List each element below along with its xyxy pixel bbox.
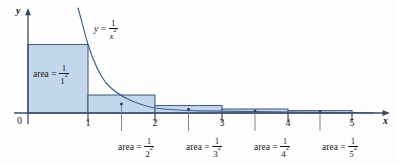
area-exponent-4: 2 bbox=[286, 144, 289, 151]
area-word-4: area bbox=[254, 143, 270, 153]
area-equals-3: = bbox=[203, 143, 211, 153]
area-word-2: area bbox=[118, 143, 134, 153]
integral-test-figure: y x 0 1 2 3 4 5 y = 1 x2 area = 1 12 bbox=[0, 0, 398, 165]
area-word-3: area bbox=[186, 143, 202, 153]
area-fraction-4: 1 42 bbox=[280, 137, 290, 159]
y-axis-label: y bbox=[16, 5, 20, 16]
area-label-5: area = 1 52 bbox=[322, 137, 358, 159]
x-tick-label-3: 3 bbox=[220, 117, 225, 128]
area-label-4: area = 1 42 bbox=[254, 137, 290, 159]
curve-equation-lhs: y bbox=[94, 25, 98, 35]
x-tick-label-1: 1 bbox=[86, 117, 91, 128]
riemann-rectangles bbox=[28, 45, 352, 114]
area-exponent-5: 2 bbox=[354, 144, 357, 151]
area-word-5: area bbox=[322, 143, 338, 153]
curve-equation-equals: = bbox=[99, 25, 107, 35]
area-equals-5: = bbox=[339, 143, 347, 153]
area-exponent-1: 2 bbox=[65, 71, 68, 78]
x-tick-label-4: 4 bbox=[286, 117, 291, 128]
curve-equation-fraction: 1 x2 bbox=[109, 19, 118, 41]
curve-equation-denominator: x2 bbox=[109, 29, 118, 41]
area-fraction-3: 1 32 bbox=[212, 137, 222, 159]
area-denominator-4: 42 bbox=[280, 147, 290, 159]
area-word-1: area bbox=[33, 70, 49, 80]
origin-label: 0 bbox=[17, 115, 22, 126]
area-exponent-2: 2 bbox=[150, 144, 153, 151]
curve-equation-label: y = 1 x2 bbox=[94, 19, 118, 41]
area-equals-2: = bbox=[135, 143, 143, 153]
area-fraction-1: 1 12 bbox=[59, 64, 69, 86]
area-label-3: area = 1 32 bbox=[186, 137, 222, 159]
area-denominator-3: 32 bbox=[212, 147, 222, 159]
area-label-2: area = 1 22 bbox=[118, 137, 154, 159]
x-tick-label-2: 2 bbox=[153, 117, 158, 128]
x-axis-label: x bbox=[383, 115, 388, 126]
area-equals-4: = bbox=[271, 143, 279, 153]
area-equals-1: = bbox=[50, 70, 58, 80]
curve-equation-exponent: 2 bbox=[114, 26, 117, 33]
area-denominator-2: 22 bbox=[144, 147, 154, 159]
x-tick-label-5: 5 bbox=[350, 117, 355, 128]
area-label-1: area = 1 12 bbox=[33, 64, 69, 86]
area-exponent-3: 2 bbox=[218, 144, 221, 151]
y-axis-arrowhead bbox=[25, 8, 31, 15]
area-denominator-5: 52 bbox=[348, 147, 358, 159]
area-fraction-2: 1 22 bbox=[144, 137, 154, 159]
area-fraction-5: 1 52 bbox=[348, 137, 358, 159]
area-denominator-1: 12 bbox=[59, 74, 69, 86]
